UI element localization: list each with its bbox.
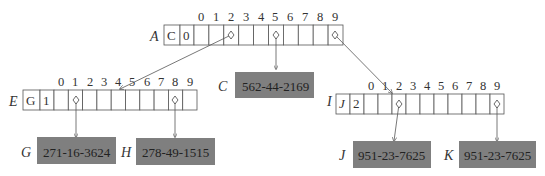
node-a-type-text: C [167,28,176,43]
svg-text:3: 3 [410,79,416,93]
svg-text:6: 6 [452,79,458,93]
svg-text:0: 0 [368,79,374,93]
svg-text:8: 8 [317,10,323,24]
record-j: J 951-23-7625 [339,141,431,168]
node-e-count-text: 1 [43,93,50,108]
svg-text:4: 4 [115,75,122,89]
node-a-count-text: 0 [183,28,190,43]
svg-text:7: 7 [158,75,164,89]
svg-text:7: 7 [466,79,472,93]
node-i-indices: 0 1 2 3 4 5 6 7 8 9 [368,79,500,93]
record-j-label: J [339,148,346,163]
record-c-value: 562-44-2169 [242,79,309,94]
svg-text:0: 0 [198,10,204,24]
svg-text:0: 0 [58,75,64,89]
svg-text:5: 5 [272,10,278,24]
node-e: E G 1 0 1 2 3 4 5 6 7 8 9 [8,75,197,110]
svg-text:5: 5 [438,79,444,93]
record-k: K 951-23-7625 [443,141,536,168]
record-c-label: C [218,79,228,94]
svg-text:6: 6 [287,10,293,24]
record-k-value: 951-23-7625 [464,148,531,163]
node-a: A C 0 0 1 2 3 4 5 6 7 8 9 [149,10,343,45]
record-k-label: K [443,148,454,163]
node-e-label: E [8,94,18,109]
svg-text:1: 1 [72,75,78,89]
node-i-count-text: 2 [353,96,360,111]
node-i-slots [364,94,504,114]
svg-text:3: 3 [101,75,107,89]
node-a-indices: 0 1 2 3 4 5 6 7 8 9 [198,10,338,24]
svg-text:2: 2 [228,10,234,24]
node-e-type-text: G [26,93,35,108]
svg-text:7: 7 [302,10,308,24]
record-g-label: G [21,145,31,160]
edge-a9-to-i [335,35,392,93]
svg-text:4: 4 [258,10,265,24]
record-c: C 562-44-2169 [218,72,314,98]
record-g: G 271-16-3624 [21,137,116,164]
svg-text:9: 9 [332,10,338,24]
node-i-label: I [326,94,333,109]
svg-text:8: 8 [172,75,178,89]
record-h-label: H [120,145,132,160]
record-h: H 278-49-1515 [120,138,215,165]
svg-text:8: 8 [480,79,486,93]
record-g-value: 271-16-3624 [43,145,111,160]
node-e-indices: 0 1 2 3 4 5 6 7 8 9 [58,75,193,89]
svg-text:1: 1 [213,10,219,24]
svg-text:4: 4 [424,79,431,93]
svg-text:2: 2 [396,79,402,93]
record-j-value: 951-23-7625 [358,148,425,163]
trie-diagram: A C 0 0 1 2 3 4 5 6 7 8 9 [0,0,545,176]
svg-text:9: 9 [494,79,500,93]
record-h-value: 278-49-1515 [142,145,209,160]
node-a-label: A [149,29,159,44]
node-i: I J 2 0 1 2 3 4 5 6 7 8 9 [326,79,504,114]
svg-text:2: 2 [87,75,93,89]
svg-text:3: 3 [243,10,249,24]
svg-text:9: 9 [187,75,193,89]
